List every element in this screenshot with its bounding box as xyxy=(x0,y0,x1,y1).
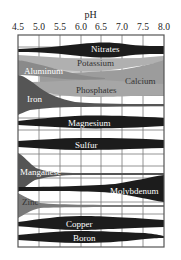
plot-area: Nitrates Potassium Aluminum Calcium Phos… xyxy=(0,0,181,260)
label-manganese: Manganese xyxy=(20,167,61,177)
label-molybdenum: Molybdenum xyxy=(110,186,159,196)
label-copper: Copper xyxy=(66,219,93,229)
label-sulfur: Sulfur xyxy=(75,140,98,150)
label-nitrates: Nitrates xyxy=(91,44,120,54)
label-aluminum: Aluminum xyxy=(24,66,63,76)
label-boron: Boron xyxy=(73,233,96,243)
label-phosphates: Phosphates xyxy=(76,85,117,95)
label-iron: Iron xyxy=(27,94,42,104)
label-calcium: Calcium xyxy=(125,76,156,86)
label-magnesium: Magnesium xyxy=(68,118,111,128)
label-potassium: Potassium xyxy=(77,58,114,68)
label-zinc: Zinc xyxy=(22,197,39,207)
